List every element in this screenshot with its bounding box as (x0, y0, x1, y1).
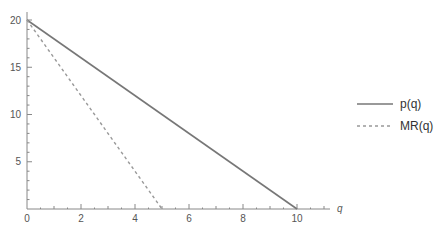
series-mr-line (27, 20, 162, 209)
chart: 0 2 4 6 8 10 q 5 10 15 20 p(q) MR(q) (0, 0, 445, 231)
x-tick-label: 10 (291, 213, 303, 224)
legend-label: MR(q) (400, 119, 433, 133)
y-tick-label: 20 (10, 15, 22, 26)
legend: p(q) MR(q) (357, 97, 433, 133)
x-tick-label: 8 (240, 213, 246, 224)
y-tick-label: 10 (10, 109, 22, 120)
y-tick-label: 15 (10, 62, 22, 73)
x-ticks (41, 204, 325, 209)
x-tick-label: 6 (186, 213, 192, 224)
y-ticks (27, 20, 32, 200)
x-tick-label: 4 (132, 213, 138, 224)
x-axis-label: q (337, 203, 343, 214)
legend-label: p(q) (400, 97, 421, 111)
y-tick-label: 5 (15, 156, 21, 167)
series-p-line (27, 20, 297, 209)
x-tick-label: 0 (24, 213, 30, 224)
x-tick-label: 2 (78, 213, 84, 224)
